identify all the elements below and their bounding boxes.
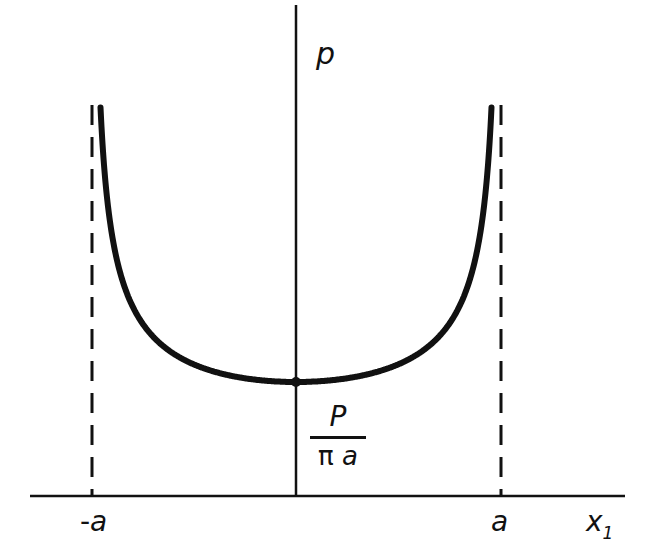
fraction-denominator: π a xyxy=(310,442,366,470)
pressure-distribution-diagram: p P π a -a a x1 xyxy=(0,0,658,559)
plot-area xyxy=(0,0,658,559)
left-bound-label: -a xyxy=(80,505,107,538)
fraction-bar xyxy=(310,436,366,439)
minus-sign: - xyxy=(80,505,90,538)
y-axis-label: p xyxy=(316,36,335,71)
minimum-value-label: P π a xyxy=(310,402,366,470)
left-bound-variable: a xyxy=(90,505,107,538)
x-axis-label: x1 xyxy=(586,505,613,543)
denominator-variable: a xyxy=(342,441,358,471)
x-axis-subscript: 1 xyxy=(603,523,614,543)
fraction-numerator: P xyxy=(310,402,366,432)
x-axis-variable: x xyxy=(586,505,603,538)
right-bound-label: a xyxy=(491,505,508,538)
pi-symbol: π xyxy=(318,441,334,471)
minimum-point-marker xyxy=(291,377,301,387)
